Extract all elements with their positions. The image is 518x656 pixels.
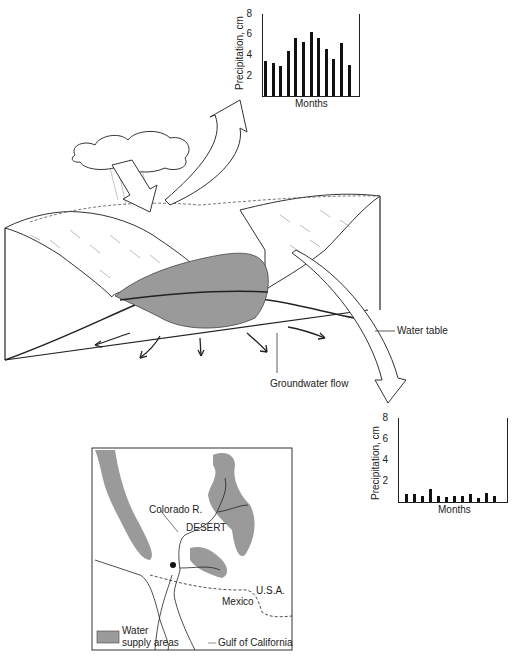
legend-label-2: supply areas bbox=[122, 637, 179, 648]
bar bbox=[340, 43, 343, 96]
bar bbox=[421, 496, 424, 502]
bar bbox=[310, 32, 313, 96]
bar bbox=[461, 496, 464, 502]
water-table-label: Water table bbox=[397, 325, 448, 336]
ytick: 8 bbox=[376, 412, 388, 423]
bar bbox=[272, 63, 275, 96]
bar bbox=[477, 498, 480, 502]
ytick: 6 bbox=[240, 28, 252, 39]
bar bbox=[413, 494, 416, 502]
bar bbox=[445, 497, 448, 502]
plot-area bbox=[262, 14, 360, 97]
colorado-river-label: Colorado R. bbox=[149, 504, 202, 515]
desert-label: DESERT bbox=[186, 522, 226, 533]
ytick: 2 bbox=[240, 70, 252, 81]
bar bbox=[302, 42, 305, 96]
ytick: 6 bbox=[376, 433, 388, 444]
bar bbox=[429, 489, 432, 502]
bar bbox=[493, 496, 496, 502]
legend-label-1: Water bbox=[122, 625, 148, 636]
legend-swatch bbox=[97, 631, 119, 643]
bar bbox=[287, 51, 290, 96]
bar bbox=[453, 496, 456, 502]
bar bbox=[264, 61, 267, 96]
mountain-precipitation-chart: Precipitation, cm 8 6 4 2 Months bbox=[232, 8, 362, 108]
groundwater-flow-label: Groundwater flow bbox=[270, 378, 348, 389]
mexico-label: Mexico bbox=[222, 596, 254, 607]
bar bbox=[325, 49, 328, 96]
bar bbox=[279, 66, 282, 96]
city-dot bbox=[170, 562, 176, 568]
x-axis-label: Months bbox=[438, 504, 471, 515]
bar bbox=[348, 65, 351, 96]
bar bbox=[294, 38, 297, 96]
bar bbox=[469, 494, 472, 502]
desert-precipitation-chart: Precipitation, cm 8 6 4 2 Months bbox=[356, 412, 512, 517]
bar bbox=[332, 59, 335, 96]
map bbox=[92, 448, 292, 650]
bar bbox=[485, 493, 488, 502]
bar bbox=[317, 38, 320, 96]
usa-label: U.S.A. bbox=[256, 585, 285, 596]
x-axis-label: Months bbox=[295, 98, 328, 109]
ytick: 2 bbox=[376, 475, 388, 486]
ytick: 4 bbox=[240, 49, 252, 60]
bar bbox=[437, 496, 440, 502]
plot-area bbox=[398, 418, 508, 503]
ytick: 4 bbox=[376, 454, 388, 465]
bar bbox=[405, 494, 408, 502]
gulf-label: Gulf of California bbox=[218, 637, 292, 648]
ytick: 8 bbox=[240, 8, 252, 19]
